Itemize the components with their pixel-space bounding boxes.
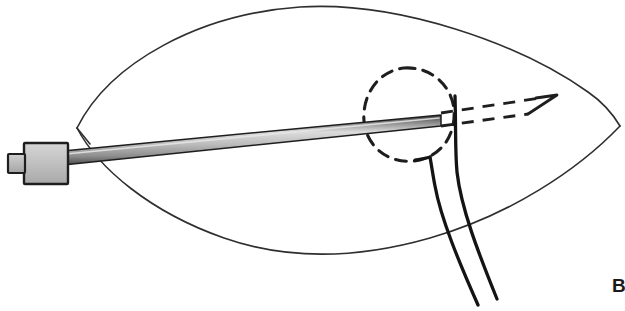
- cannula-hub: [8, 143, 68, 184]
- needle-trajectory-arrow: [441, 95, 557, 126]
- figure-panel-b: B: [0, 0, 625, 311]
- panel-label: B: [612, 276, 625, 295]
- needle-shaft: [63, 115, 441, 165]
- hub-tip: [8, 154, 25, 173]
- hub-body: [24, 143, 68, 184]
- surgical-diagram: [0, 0, 625, 311]
